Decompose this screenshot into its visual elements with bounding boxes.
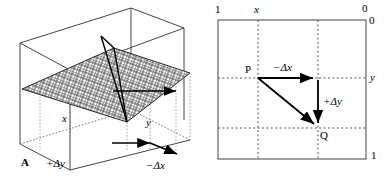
top-label-right: 0 [362, 3, 368, 14]
mesh-plane [22, 48, 190, 122]
three-d-box-svg [0, 0, 194, 176]
vector-label-plus-delta-y: +Δy [323, 96, 342, 107]
label-plus-delta-y: +Δy [46, 158, 65, 169]
top-label-center: x [254, 4, 259, 15]
vector-resultant [258, 78, 314, 124]
vector-label-minus-delta-x: −Δx [273, 62, 292, 73]
point-label-p: P [245, 64, 251, 75]
top-label-left: 1 [215, 4, 221, 15]
point-label-q: Q [320, 130, 328, 141]
two-d-plane-svg [194, 0, 387, 176]
three-d-box-panel: x y A +Δy −Δx [0, 0, 194, 176]
right-label-top: 0 [369, 15, 375, 26]
panel-label-a: A [21, 157, 29, 168]
two-d-plane-panel: 1 x 0 0 y 1 P Q −Δx +Δy [194, 0, 387, 176]
figure-container: x y A +Δy −Δx [0, 0, 387, 176]
right-label-middle: y [370, 72, 375, 83]
axis-label-y: y [146, 117, 151, 128]
plane-frame [218, 20, 366, 159]
label-minus-delta-x: −Δx [146, 160, 165, 171]
axis-label-x: x [62, 113, 67, 124]
right-label-bottom: 1 [371, 150, 377, 161]
grid-lines [218, 20, 366, 159]
